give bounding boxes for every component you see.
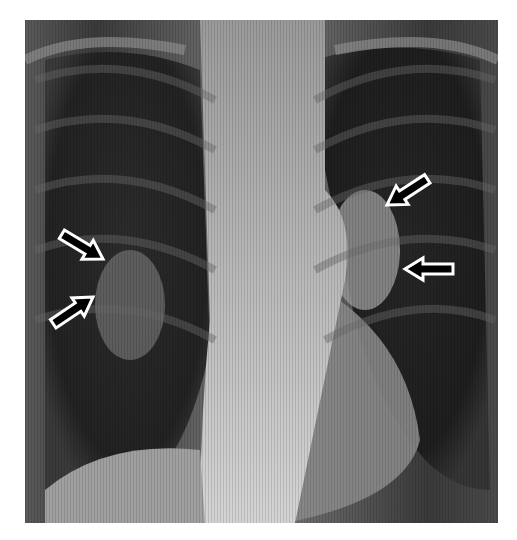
chest-xray-image xyxy=(25,20,498,523)
grid-texture xyxy=(25,20,498,523)
